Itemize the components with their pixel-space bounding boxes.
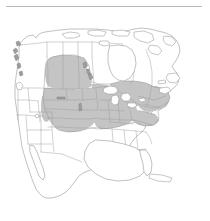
relief-mark-montana <box>57 97 65 99</box>
island-cuba <box>149 174 172 182</box>
range-prairie-provinces <box>45 55 92 90</box>
island-yakutat-coast <box>16 41 21 46</box>
island-alexander-archipelago-3 <box>13 48 18 54</box>
figure-root <box>0 0 210 221</box>
map-svg <box>0 12 210 221</box>
island-anticosti <box>158 80 166 84</box>
water-gulf-of-mexico <box>84 140 148 181</box>
horizontal-rule-divider <box>6 6 202 7</box>
distribution-map <box>0 12 210 221</box>
water-great-salt-lake <box>35 114 39 118</box>
boundary-ga-sc <box>146 132 152 144</box>
water-lake-michigan <box>111 95 119 105</box>
